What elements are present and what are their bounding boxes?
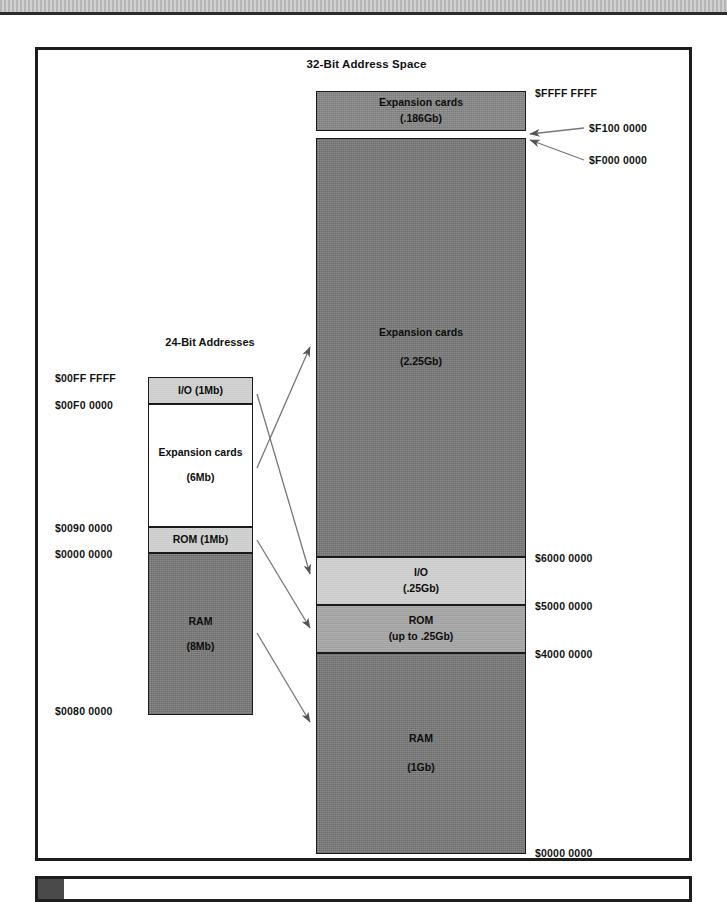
right-address-ffff-ffff: $FFFF FFFF xyxy=(535,87,597,99)
right-block-expansion-main-label: Expansion cards xyxy=(379,325,463,341)
left-address-0090-0000: $0090 0000 xyxy=(55,522,112,534)
right-block-expansion-top-label: Expansion cards xyxy=(379,95,463,111)
right-block-expansion-top-size: (.186Gb) xyxy=(400,111,442,127)
left-block-rom: ROM (1Mb) xyxy=(148,527,253,553)
right-block-ram-label: RAM xyxy=(409,731,433,747)
right-block-expansion-main-size: (2.25Gb) xyxy=(400,354,442,370)
next-figure-swatch xyxy=(38,879,64,899)
arrow-io-mapping xyxy=(257,394,310,574)
right-address-6000-0000: $6000 0000 xyxy=(535,552,592,564)
next-figure-frame xyxy=(35,876,692,902)
right-block-expansion-top: Expansion cards (.186Gb) xyxy=(316,91,526,131)
right-address-4000-0000: $4000 0000 xyxy=(535,648,592,660)
right-address-f000-0000: $F000 0000 xyxy=(589,154,647,166)
left-block-io: I/O (1Mb) xyxy=(148,377,253,404)
right-block-io-label: I/O xyxy=(414,565,428,581)
left-block-ram-size: (8Mb) xyxy=(187,639,215,655)
arrow-expansion-mapping xyxy=(257,347,310,468)
arrow-callout-f100 xyxy=(530,128,584,134)
right-address-f100-0000: $F100 0000 xyxy=(589,122,647,134)
right-block-io-size: (.25Gb) xyxy=(403,581,439,597)
right-block-rom-label: ROM xyxy=(409,613,434,629)
address-space-figure: 32-Bit Address Space 24-Bit Addresses I/… xyxy=(35,47,692,861)
arrow-callout-f000 xyxy=(530,140,584,160)
left-block-io-label: I/O (1Mb) xyxy=(178,383,223,399)
right-address-5000-0000: $5000 0000 xyxy=(535,600,592,612)
left-address-0000-0000: $0000 0000 xyxy=(55,548,112,560)
right-block-expansion-main: Expansion cards (2.25Gb) xyxy=(316,138,526,557)
left-column-title: 24-Bit Addresses xyxy=(130,336,290,348)
left-address-00ff-ffff: $00FF FFFF xyxy=(55,372,116,384)
right-block-ram: RAM (1Gb) xyxy=(316,653,526,854)
left-address-0080-0000: $0080 0000 xyxy=(55,705,112,717)
left-block-rom-label: ROM (1Mb) xyxy=(173,532,228,548)
arrow-rom-mapping xyxy=(257,540,310,628)
left-block-expansion: Expansion cards (6Mb) xyxy=(148,404,253,527)
figure-title: 32-Bit Address Space xyxy=(38,58,695,70)
right-block-io: I/O (.25Gb) xyxy=(316,557,526,605)
page-scan-band xyxy=(0,0,727,12)
right-address-0000-0000: $0000 0000 xyxy=(535,847,592,859)
arrow-ram-mapping xyxy=(257,633,310,722)
left-block-expansion-label: Expansion cards xyxy=(158,445,242,461)
page-top-rule xyxy=(0,12,727,15)
left-block-expansion-size: (6Mb) xyxy=(187,470,215,486)
right-block-ram-size: (1Gb) xyxy=(407,760,434,776)
right-block-rom-size: (up to .25Gb) xyxy=(389,629,454,645)
left-block-ram-label: RAM xyxy=(189,614,213,630)
left-address-00f0-0000: $00F0 0000 xyxy=(55,399,113,411)
left-block-ram: RAM (8Mb) xyxy=(148,553,253,715)
right-block-rom: ROM (up to .25Gb) xyxy=(316,605,526,653)
